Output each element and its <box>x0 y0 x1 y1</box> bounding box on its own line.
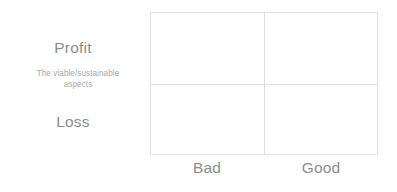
quadrant-loss-bad[interactable] <box>151 85 264 154</box>
x-axis-label-good: Good <box>264 158 378 178</box>
quadrant-matrix-canvas: Profit The viable/sustainable aspects Lo… <box>0 0 397 192</box>
quadrant-loss-good[interactable] <box>265 85 377 154</box>
x-axis-label-bad: Bad <box>150 158 264 178</box>
horizontal-divider-line <box>150 84 378 85</box>
quadrant-profit-bad[interactable] <box>151 13 264 84</box>
quadrant-profit-good[interactable] <box>265 13 377 84</box>
y-axis-mid-caption-line-2: aspects <box>6 79 150 90</box>
y-axis-label-loss: Loss <box>0 112 146 132</box>
y-axis-mid-caption: The viable/sustainable aspects <box>6 68 150 90</box>
y-axis-mid-caption-line-1: The viable/sustainable <box>6 68 150 79</box>
y-axis-label-profit: Profit <box>0 38 146 58</box>
